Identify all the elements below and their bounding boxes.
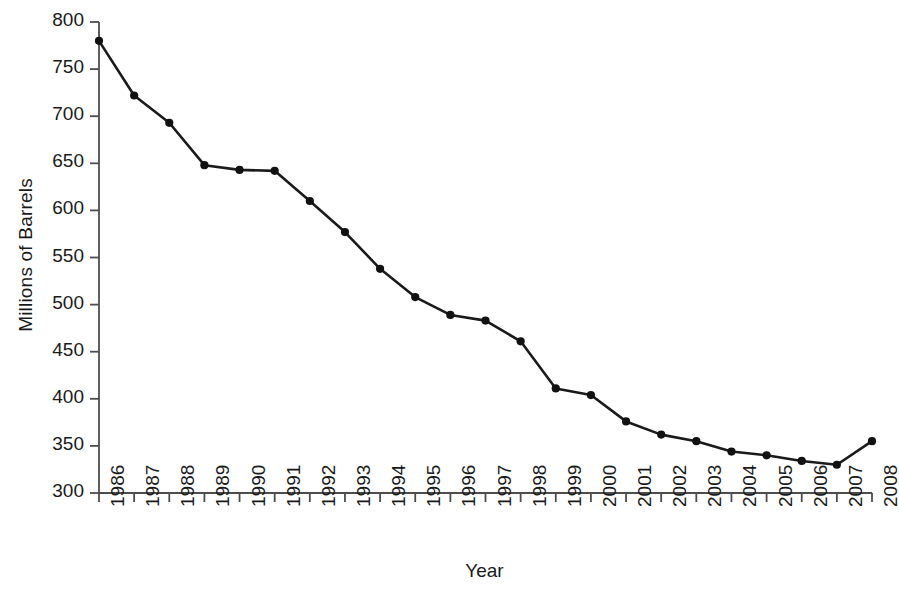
data-point [622, 417, 630, 425]
data-point [657, 431, 665, 439]
y-tick-label: 300 [26, 480, 84, 502]
data-point [517, 337, 525, 345]
y-tick-label: 600 [26, 197, 84, 219]
chart-figure: Millions of Barrels 30035040045050055060… [0, 0, 899, 608]
x-tick-label: 1999 [564, 465, 586, 507]
y-tick-label: 500 [26, 292, 84, 314]
x-tick-label: 1997 [494, 465, 516, 507]
x-tick-label: 1990 [248, 465, 270, 507]
data-point [165, 119, 173, 127]
x-axis-title-text: Year [465, 560, 503, 581]
x-tick-label: 1992 [318, 465, 340, 507]
x-tick-label: 1993 [353, 465, 375, 507]
x-tick-label: 1991 [283, 465, 305, 507]
data-point [95, 37, 103, 45]
x-tick-label: 1987 [142, 465, 164, 507]
axis-ticks [90, 22, 872, 502]
x-tick-label: 1998 [529, 465, 551, 507]
x-tick-label: 2006 [810, 465, 832, 507]
data-point [692, 437, 700, 445]
y-tick-label: 750 [26, 56, 84, 78]
data-point [727, 447, 735, 455]
data-point [762, 451, 770, 459]
x-tick-label: 1995 [423, 465, 445, 507]
x-tick-label: 2004 [739, 465, 761, 507]
y-tick-label: 400 [26, 386, 84, 408]
x-tick-label: 2003 [704, 465, 726, 507]
data-point [130, 91, 138, 99]
y-tick-label: 450 [26, 339, 84, 361]
data-markers [95, 37, 876, 469]
x-tick-label: 1988 [177, 465, 199, 507]
x-axis-title: Year [0, 560, 899, 582]
data-point [411, 293, 419, 301]
data-point [798, 457, 806, 465]
x-tick-label: 2007 [845, 465, 867, 507]
axes [99, 22, 872, 493]
x-tick-label: 1994 [388, 465, 410, 507]
data-point [306, 197, 314, 205]
y-tick-label: 700 [26, 103, 84, 125]
x-tick-label: 1989 [212, 465, 234, 507]
data-point [341, 228, 349, 236]
x-tick-label: 2005 [775, 465, 797, 507]
data-point [868, 437, 876, 445]
data-point [235, 166, 243, 174]
line-chart-plot [0, 0, 899, 608]
data-point [271, 167, 279, 175]
y-tick-label: 650 [26, 150, 84, 172]
data-point [587, 391, 595, 399]
y-tick-label: 800 [26, 9, 84, 31]
data-point [833, 461, 841, 469]
x-tick-label: 2002 [669, 465, 691, 507]
x-tick-label: 2008 [880, 465, 899, 507]
y-tick-label: 550 [26, 245, 84, 267]
y-tick-label: 350 [26, 433, 84, 455]
x-tick-label: 2001 [634, 465, 656, 507]
x-tick-label: 1996 [458, 465, 480, 507]
x-tick-label: 2000 [599, 465, 621, 507]
data-point [376, 265, 384, 273]
data-point [552, 384, 560, 392]
data-line [99, 41, 872, 465]
data-point [481, 317, 489, 325]
data-point [200, 161, 208, 169]
data-point [446, 311, 454, 319]
x-tick-label: 1986 [107, 465, 129, 507]
